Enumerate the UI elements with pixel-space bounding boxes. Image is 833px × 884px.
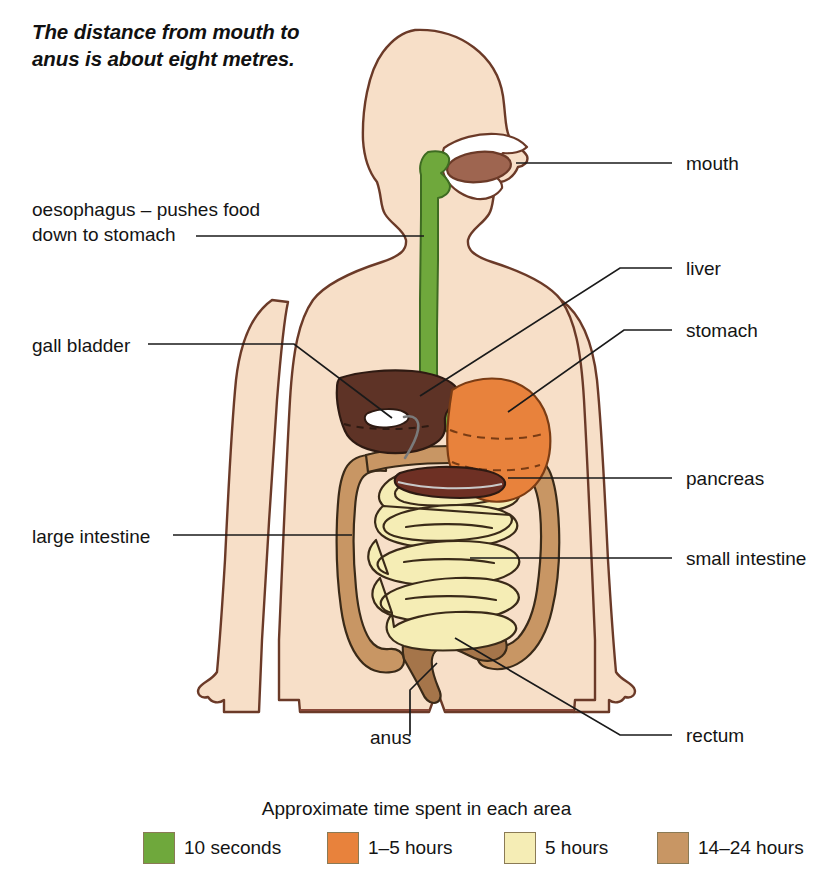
legend-swatch-brown [657,832,689,864]
pancreas [395,467,505,498]
legend-swatch-yellow [504,832,536,864]
title-line-1: The distance from mouth to [32,18,362,45]
legend-item-2: 5 hours [504,832,608,864]
label-mouth: mouth [686,152,739,177]
label-small-intestine: small intestine [686,547,806,572]
human-body-illustration [0,0,833,884]
label-gall-bladder: gall bladder [32,334,130,359]
legend-label-2: 5 hours [545,837,608,859]
legend-item-0: 10 seconds [143,832,281,864]
title-line-2: anus is about eight metres. [32,45,362,72]
legend-label-1: 1–5 hours [368,837,453,859]
legend-title: Approximate time spent in each area [0,798,833,820]
page-title: The distance from mouth to anus is about… [32,18,362,72]
legend-label-3: 14–24 hours [698,837,804,859]
label-anus: anus [370,726,411,751]
legend-swatch-green [143,832,175,864]
left-arm [198,300,288,712]
label-large-intestine: large intestine [32,525,150,550]
label-rectum: rectum [686,724,744,749]
label-oesophagus-line-2: down to stomach [32,223,292,248]
legend-item-1: 1–5 hours [327,832,453,864]
legend: 10 seconds 1–5 hours 5 hours 14–24 hours [0,832,833,876]
diagram-canvas: The distance from mouth to anus is about… [0,0,833,884]
label-liver: liver [686,257,721,282]
label-oesophagus-line-1: oesophagus – pushes food [32,198,292,223]
legend-label-0: 10 seconds [184,837,281,859]
label-pancreas: pancreas [686,467,764,492]
gall-bladder [365,409,409,427]
legend-item-3: 14–24 hours [657,832,804,864]
legend-swatch-orange [327,832,359,864]
label-stomach: stomach [686,319,758,344]
label-oesophagus: oesophagus – pushes food down to stomach [32,198,292,247]
